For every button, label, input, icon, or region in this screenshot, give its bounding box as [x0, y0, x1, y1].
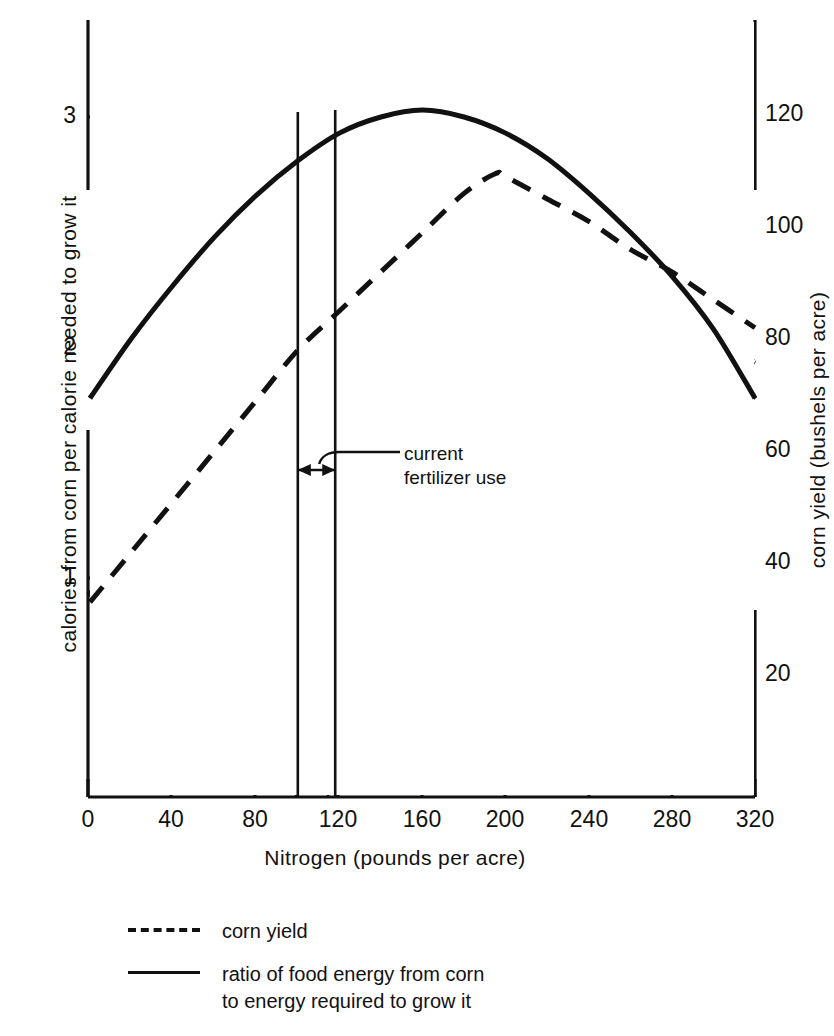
x-axis-title: Nitrogen (pounds per acre) — [0, 846, 790, 870]
x-tick-40: 40 — [141, 806, 201, 833]
right-tick-100: 100 — [765, 212, 803, 239]
x-tick-160: 160 — [392, 806, 452, 833]
x-tick-240: 240 — [559, 806, 619, 833]
annotation-current-fertilizer-use: current fertilizer use — [404, 442, 506, 491]
legend-label-energy-ratio-line2: to energy required to grow it — [222, 988, 484, 1014]
right-tick-80: 80 — [765, 324, 791, 351]
legend-dashed-line-icon — [128, 918, 200, 940]
annotation-line-2: fertilizer use — [404, 466, 506, 490]
x-tick-80: 80 — [225, 806, 285, 833]
legend-item-corn-yield: corn yield — [128, 918, 828, 944]
x-tick-0: 0 — [58, 806, 118, 833]
right-tick-40: 40 — [765, 548, 791, 575]
x-tick-200: 200 — [475, 806, 535, 833]
chart-data-curves — [0, 0, 834, 1036]
right-tick-120: 120 — [765, 100, 803, 127]
legend-label-energy-ratio-line1: ratio of food energy from corn — [222, 961, 484, 987]
chart-figure: 3 2 1 120 100 80 60 40 20 0 40 80 120 16… — [0, 0, 834, 1036]
legend-item-energy-ratio: ratio of food energy from corn to energy… — [128, 961, 828, 1014]
annotation-line-1: current — [404, 442, 506, 466]
legend-label-energy-ratio: ratio of food energy from corn to energy… — [222, 961, 484, 1014]
x-tick-280: 280 — [642, 806, 702, 833]
x-tick-120: 120 — [308, 806, 368, 833]
y-axis-title: calories from corn per calorie needed to… — [57, 124, 81, 724]
legend-label-corn-yield: corn yield — [222, 918, 308, 944]
legend-solid-line-icon — [128, 961, 200, 983]
right-tick-60: 60 — [765, 436, 791, 463]
y2-axis-title: corn yield (bushels per acre) — [806, 150, 830, 710]
chart-legend: corn yield ratio of food energy from cor… — [128, 918, 828, 1031]
x-tick-320: 320 — [725, 806, 785, 833]
right-tick-20: 20 — [765, 660, 791, 687]
